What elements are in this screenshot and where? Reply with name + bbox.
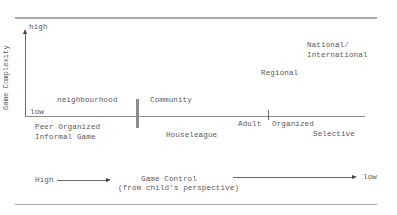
x-axis-title-line1: Game Control <box>141 175 197 184</box>
x-axis-left-arrow-icon <box>106 178 111 182</box>
category-houseleague: Houseleague <box>166 131 217 140</box>
category-adult: Adult <box>238 120 261 129</box>
x-axis-title-line2: (from child's perspective) <box>118 184 239 193</box>
x-baseline <box>25 116 365 117</box>
y-axis-line <box>25 32 26 117</box>
category-peer-line1: Peer Organized <box>35 123 100 132</box>
top-rule <box>15 17 377 19</box>
x-axis-high-label: High <box>35 176 54 185</box>
category-selective: Selective <box>313 130 355 139</box>
x-axis-low-label: low <box>363 173 377 182</box>
y-axis-arrow-icon <box>23 29 27 34</box>
community-divider <box>136 99 139 128</box>
x-axis-right-arrow-line <box>233 177 353 178</box>
stage-national-line1: National/ <box>307 41 349 50</box>
adult-organized-tick <box>268 110 269 120</box>
category-peer-line2: Informal Game <box>35 133 96 142</box>
bottom-rule <box>15 204 377 205</box>
stage-regional: Regional <box>261 69 298 78</box>
y-axis-high-label: high <box>29 23 48 32</box>
category-organized: Organized <box>272 120 314 129</box>
stage-neighbourhood: neighbourhood <box>57 96 118 105</box>
x-axis-right-arrow-icon <box>352 175 357 179</box>
stage-national-line2: International <box>307 51 368 60</box>
stage-community: Community <box>150 96 192 105</box>
y-axis-title: Game Complexity <box>2 45 10 110</box>
x-axis-left-arrow-line <box>57 180 107 181</box>
